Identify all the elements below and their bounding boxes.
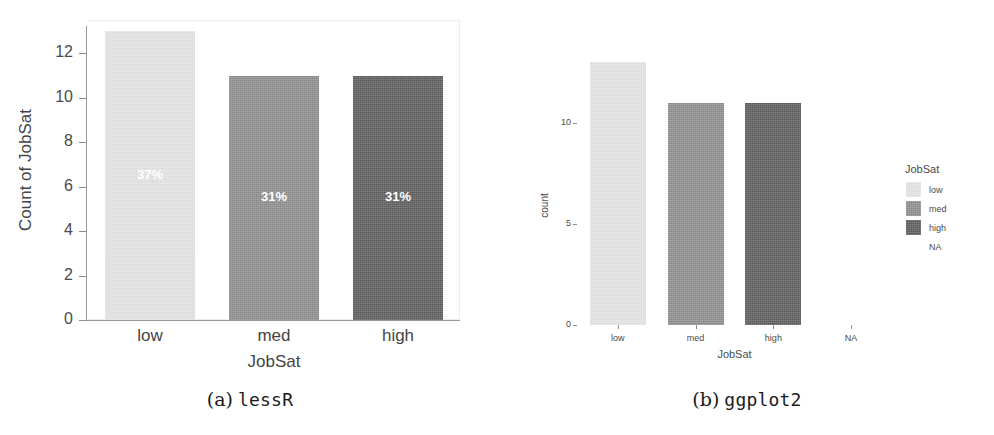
y-tick-mark	[79, 276, 86, 277]
caption-a-name: lessR	[238, 389, 293, 410]
lessr-y-axis-line	[86, 26, 87, 320]
bar	[590, 62, 646, 325]
y-tick-label: 0	[566, 319, 571, 329]
ggplot2-y-axis-ticks: 0510	[500, 0, 579, 380]
lessr-x-axis-tick-labels: lowmedhigh	[88, 326, 460, 350]
legend-entries: lowmedhighNA	[904, 180, 990, 256]
ggplot2-x-axis-label: JobSat	[579, 348, 890, 360]
bar-texture	[745, 103, 801, 325]
y-tick-mark	[79, 187, 86, 188]
y-tick-label: 10	[561, 117, 571, 127]
y-tick-mark	[79, 53, 86, 54]
y-tick-mark	[573, 224, 577, 225]
legend-label: NA	[929, 242, 942, 252]
ggplot2-x-axis-tick-labels: lowmedhighNA	[579, 333, 890, 349]
caption-b-label: (b)	[692, 388, 719, 410]
bar-percent-label: 31%	[353, 189, 442, 204]
y-tick-mark	[79, 142, 86, 143]
figure-two-panel: Count of JobSat 024681012 37%31%31% lowm…	[0, 0, 994, 435]
bar-percent-label: 37%	[105, 167, 194, 182]
x-tick-label: low	[611, 333, 625, 343]
caption-a-label: (a)	[207, 388, 233, 410]
legend-swatch	[906, 182, 921, 197]
legend-swatch-texture	[906, 201, 921, 216]
legend-swatch	[906, 201, 921, 216]
bar-percent-label: 31%	[229, 189, 318, 204]
ggplot2-legend: JobSat lowmedhighNA	[904, 163, 990, 256]
x-tick-label: high	[765, 333, 782, 343]
caption-a: (a)lessR	[0, 388, 500, 410]
lessr-x-axis-label: JobSat	[88, 352, 460, 372]
legend-item: NA	[904, 237, 990, 256]
x-tick-label: med	[257, 326, 290, 346]
legend-label: low	[929, 185, 943, 195]
bar: 31%	[353, 76, 442, 320]
y-tick-label: 10	[55, 88, 73, 106]
caption-b: (b)ggplot2	[500, 388, 994, 410]
bar	[745, 103, 801, 325]
x-tick-label: low	[137, 326, 163, 346]
bar-texture	[668, 103, 724, 325]
caption-b-name: ggplot2	[724, 389, 801, 410]
subfigure-lessr: Count of JobSat 024681012 37%31%31% lowm…	[0, 0, 500, 435]
y-tick-label: 6	[64, 177, 73, 195]
y-tick-mark	[79, 231, 86, 232]
legend-swatch	[906, 220, 921, 235]
lessr-chart: Count of JobSat 024681012 37%31%31% lowm…	[0, 0, 500, 380]
bar-texture	[590, 62, 646, 325]
ggplot2-bars-group	[579, 52, 890, 325]
legend-item: high	[904, 218, 990, 237]
legend-swatch-texture	[906, 182, 921, 197]
y-tick-label: 2	[64, 266, 73, 284]
x-tick-mark	[851, 325, 852, 329]
y-tick-mark	[79, 98, 86, 99]
lessr-y-axis-ticks: 024681012	[0, 0, 86, 340]
bar: 31%	[229, 76, 318, 320]
ggplot2-chart: count 0510 lowmedhighNA JobSat JobSat lo…	[500, 0, 994, 380]
legend-swatch	[906, 239, 921, 254]
bar: 37%	[105, 31, 194, 320]
y-tick-label: 5	[566, 218, 571, 228]
y-tick-label: 0	[64, 310, 73, 328]
y-tick-label: 12	[55, 43, 73, 61]
subfigure-ggplot2: count 0510 lowmedhighNA JobSat JobSat lo…	[500, 0, 994, 435]
y-tick-mark	[79, 320, 86, 321]
x-tick-mark	[773, 325, 774, 329]
x-tick-label: med	[687, 333, 705, 343]
legend-item: med	[904, 199, 990, 218]
x-tick-mark	[618, 325, 619, 329]
legend-label: med	[929, 204, 947, 214]
ggplot2-x-axis-ticks	[579, 325, 890, 331]
legend-swatch-texture	[906, 220, 921, 235]
y-tick-mark	[573, 325, 577, 326]
y-tick-label: 8	[64, 132, 73, 150]
legend-title: JobSat	[905, 163, 990, 175]
x-tick-label: high	[382, 326, 414, 346]
legend-item: low	[904, 180, 990, 199]
lessr-x-axis-line	[86, 320, 460, 321]
bar	[668, 103, 724, 325]
lessr-bars-group: 37%31%31%	[88, 20, 460, 320]
legend-label: high	[929, 223, 946, 233]
y-tick-label: 4	[64, 221, 73, 239]
x-tick-mark	[696, 325, 697, 329]
y-tick-mark	[573, 123, 577, 124]
x-tick-label: NA	[845, 333, 858, 343]
